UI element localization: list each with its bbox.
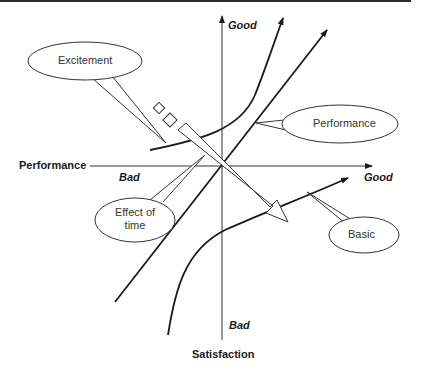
x-axis-label: Performance	[19, 159, 86, 171]
x-positive-label: Good	[364, 171, 393, 183]
y-axis-label: Satisfaction	[192, 348, 254, 360]
effect-of-time-arrow	[153, 102, 288, 222]
effect-of-time-label: Effect of time	[100, 206, 170, 232]
basic-label: Basic	[348, 228, 375, 241]
excitement-curve	[150, 18, 283, 150]
performance-label: Performance	[313, 117, 376, 130]
effect-of-time-line1: Effect of	[100, 206, 170, 219]
y-positive-label: Good	[228, 19, 257, 31]
excitement-label: Excitement	[58, 54, 112, 67]
effect-of-time-line2: time	[100, 219, 170, 232]
y-negative-label: Bad	[229, 319, 250, 331]
basic-callout	[307, 192, 399, 253]
x-negative-label: Bad	[119, 171, 140, 183]
